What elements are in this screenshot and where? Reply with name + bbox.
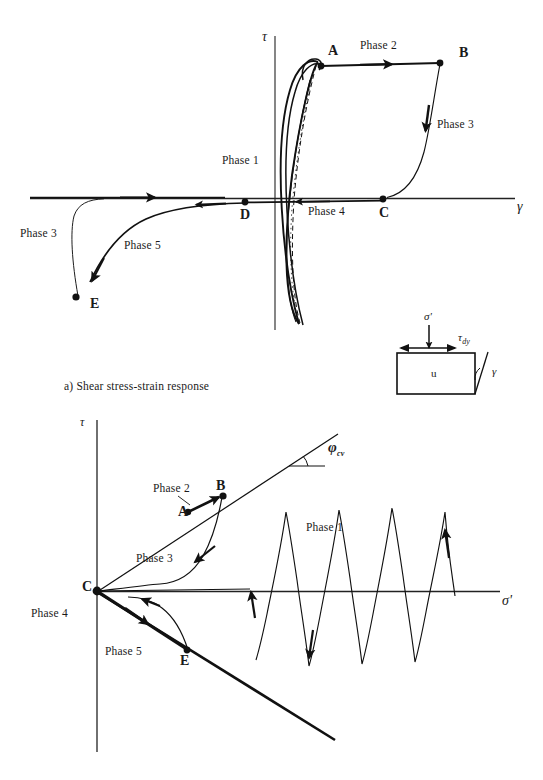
- panel-b-phase-3-label: Phase 3: [136, 553, 173, 565]
- panel-b-phase-4-label: Phase 4: [31, 608, 68, 620]
- panel-b-graphics: [0, 0, 543, 780]
- panel-b-friction-angle-subscript: cv: [337, 449, 345, 458]
- panel-b-phase-2-label: Phase 2: [153, 483, 190, 495]
- panel-b-point-e-label: E: [180, 654, 190, 668]
- panel-b-phase-5-label: Phase 5: [105, 646, 142, 658]
- critical-state-line-upper: [97, 434, 338, 592]
- phase-4-path-b: [97, 589, 250, 591]
- phase-1-cyclic-path: [256, 508, 455, 666]
- phase-3-path-b: [100, 497, 222, 591]
- phase-1-arrows: [251, 530, 449, 658]
- panel-b-point-c-label: C: [82, 580, 92, 594]
- panel-b-point-b-label: B: [216, 479, 226, 493]
- panel-b-point-a-label: A: [178, 505, 188, 519]
- panel-b-friction-angle-label: φcv: [328, 440, 345, 458]
- phase-5-path-b: [100, 593, 188, 650]
- panel-b-x-axis-label: σ': [502, 594, 512, 608]
- figure-container: τ γ A B C D E Phase 1 Phase 2 Phase 3 Ph…: [0, 0, 543, 780]
- panel-b-y-axis-label: τ: [80, 416, 85, 428]
- panel-b-phase-1-label: Phase 1: [306, 522, 343, 534]
- panel-b-axes: [97, 420, 500, 752]
- panel-b-point-markers: [93, 492, 227, 653]
